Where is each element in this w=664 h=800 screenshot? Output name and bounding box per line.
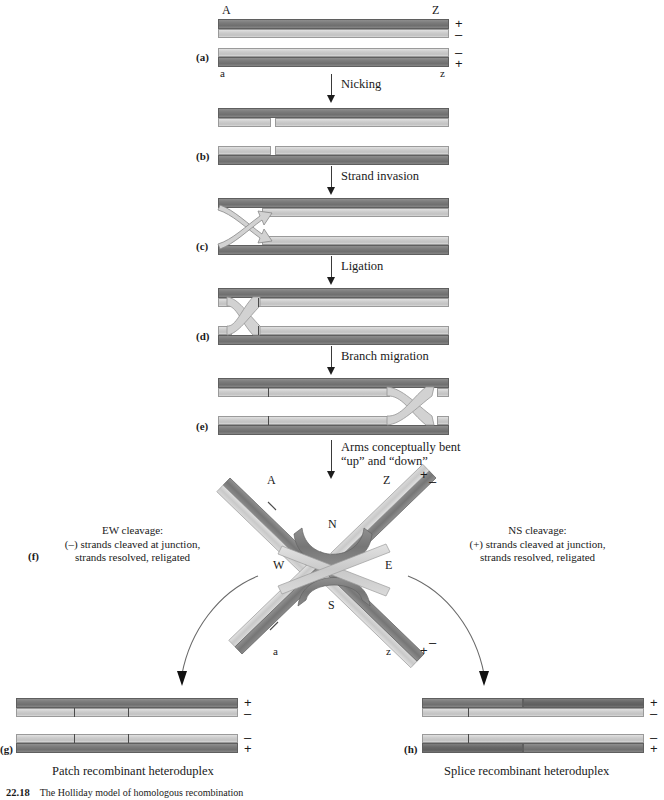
polarity-g2-plus: +	[244, 744, 252, 753]
ns-cleavage-line3: strands resolved, religated	[440, 551, 635, 565]
nick-mark-h2	[468, 734, 469, 743]
strand-g2-minus	[16, 734, 238, 743]
step-label-bending-line2: “up” and “down”	[341, 454, 428, 468]
step-label-nicking: Nicking	[341, 77, 381, 91]
ew-cleavage-line3: strands resolved, religated	[40, 551, 225, 565]
junction-arm-label-A: A	[267, 474, 276, 486]
figure-caption-text: The Holliday model of homologous recombi…	[40, 787, 244, 798]
nick-mark-h1	[468, 708, 469, 717]
strand-e1-minus-left	[218, 388, 390, 397]
panel-f-chi-junction: A Z a z + – – + N W E S EW cleavage: (–)…	[0, 468, 664, 668]
arrow-line-strand-invasion	[331, 166, 332, 189]
panel-label-f: (f)	[28, 551, 39, 562]
arrow-head-nicking	[327, 95, 335, 103]
panel-g-patch-product: + – – + (g) Patch recombinant heterodupl…	[0, 694, 300, 784]
ew-cleavage-caption: EW cleavage: (–) strands cleaved at junc…	[40, 524, 225, 565]
strand-a1-plus	[218, 19, 449, 29]
nick-mark-g1-right	[128, 708, 129, 717]
panel-label-a: (a)	[196, 52, 209, 63]
nick-mark-e1	[268, 388, 269, 397]
step-label-branch-migration: Branch migration	[341, 349, 429, 363]
strand-a2-minus	[218, 48, 449, 57]
strand-d1-minus-right	[258, 298, 449, 307]
panel-label-e: (e)	[196, 421, 208, 432]
strand-b2-plus	[218, 155, 449, 165]
compass-label-south: S	[328, 599, 335, 611]
junction-arm-label-a: a	[273, 646, 278, 657]
polarity-h2-plus: +	[650, 744, 658, 753]
panel-label-b: (b)	[196, 151, 209, 162]
strand-h2-plus-left	[422, 743, 523, 753]
splice-product-caption: Splice recombinant heteroduplex	[444, 764, 609, 778]
step-label-strand-invasion: Strand invasion	[341, 169, 419, 183]
end-label-z-lower: z	[440, 68, 445, 79]
end-label-a-lower: a	[220, 68, 225, 79]
nick-mark-g2-right	[128, 734, 129, 743]
ns-cleavage-caption: NS cleavage: (+) strands cleaved at junc…	[440, 524, 635, 565]
strand-b1-plus	[218, 108, 449, 118]
strand-b1-minus-right	[275, 118, 449, 127]
strand-h1-plus-right	[523, 698, 644, 708]
arrow-line-ligation	[331, 256, 332, 279]
step-label-ligation: Ligation	[341, 259, 383, 273]
polarity-a2-plus: +	[455, 59, 463, 68]
patch-product-caption: Patch recombinant heteroduplex	[52, 764, 214, 778]
resolution-arrow-left	[140, 570, 270, 690]
nick-mark-d2	[258, 326, 259, 335]
strand-h1-plus-left	[422, 698, 523, 708]
strand-c1-minus-right	[262, 208, 449, 217]
holliday-crossover-d	[226, 296, 266, 340]
end-label-A: A	[222, 4, 231, 16]
strand-c2-minus-right	[262, 236, 449, 245]
ew-cleavage-line2: (–) strands cleaved at junction,	[40, 538, 225, 552]
panel-label-g: (g)	[0, 744, 13, 755]
compass-label-north: N	[328, 518, 337, 530]
ew-cleavage-line1: EW cleavage:	[40, 524, 225, 538]
polarity-g1-minus: –	[244, 709, 251, 718]
strand-e2-minus-left	[218, 416, 390, 425]
strand-h2-plus-right	[523, 743, 644, 753]
figure-number: 22.18	[6, 787, 30, 798]
end-label-Z: Z	[432, 4, 439, 16]
panel-label-c: (c)	[196, 241, 208, 252]
resolution-arrow-right	[396, 570, 526, 690]
strand-invasion-arrows	[214, 194, 284, 264]
arrow-line-nicking	[331, 74, 332, 97]
strand-d2-minus-right	[258, 326, 449, 335]
compass-label-east: E	[385, 559, 392, 571]
panel-label-d: (d)	[196, 331, 209, 342]
strand-h1-minus	[422, 708, 644, 717]
arrow-line-branch-migration	[331, 346, 332, 369]
strand-g1-minus	[16, 708, 238, 717]
strand-a1-minus	[218, 29, 449, 38]
polarity-h1-minus: –	[650, 709, 657, 718]
holliday-crossover-e	[386, 386, 440, 430]
nick-mark-g1-left	[74, 708, 75, 717]
ns-cleavage-line1: NS cleavage:	[440, 524, 635, 538]
strand-g1-plus	[16, 698, 238, 708]
strand-b2-minus-right	[275, 146, 449, 155]
junction-polarity-ne-plus: +	[420, 470, 428, 479]
ns-cleavage-line2: (+) strands cleaved at junction,	[440, 538, 635, 552]
step-label-bending-line1: Arms conceptually bent	[341, 440, 460, 454]
strand-a2-plus	[218, 57, 449, 67]
nick-mark-d1	[258, 298, 259, 307]
panel-label-h: (h)	[404, 744, 417, 755]
panel-h-splice-product: + – – + (h) Splice recombinant heterodup…	[396, 694, 664, 784]
strand-b1-minus-left	[218, 118, 271, 127]
strand-b2-minus-left	[218, 146, 271, 155]
junction-arm-label-Z: Z	[383, 474, 390, 486]
compass-label-west: W	[273, 559, 284, 571]
nick-mark-e2	[268, 416, 269, 425]
figure-caption: 22.18 The Holliday model of homologous r…	[6, 782, 506, 800]
nick-mark-g2-left	[74, 734, 75, 743]
polarity-a1-minus: –	[455, 30, 462, 39]
junction-polarity-ne-minus: –	[429, 477, 436, 486]
junction-arm-label-z: z	[386, 646, 391, 657]
strand-g2-plus	[16, 743, 238, 753]
strand-h2-minus	[422, 734, 644, 743]
